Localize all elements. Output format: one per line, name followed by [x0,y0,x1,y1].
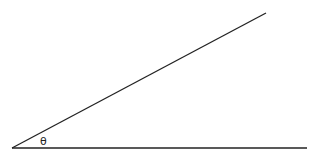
angle-ray [12,13,266,148]
angle-diagram: θ [0,0,316,160]
angle-label: θ [40,135,47,148]
